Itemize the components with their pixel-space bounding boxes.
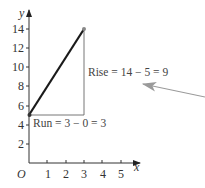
pointer-arrow	[143, 84, 205, 97]
svg-text:14: 14	[12, 22, 24, 36]
svg-text:2: 2	[63, 167, 69, 181]
svg-text:12: 12	[12, 41, 24, 55]
svg-text:2: 2	[18, 137, 24, 151]
origin-label: O	[17, 167, 26, 181]
svg-text:1: 1	[45, 167, 51, 181]
x-tick-labels: 1 2 3 4 5	[45, 167, 124, 181]
rise-annotation: Rise = 14 − 5 = 9	[88, 66, 168, 78]
y-axis-label: y	[18, 6, 25, 20]
slope-segment	[29, 29, 84, 115]
point-end	[82, 27, 86, 31]
slope-diagram: 2 4 6 8 10 12 14 1 2 3 4 5 y x O Rise = …	[0, 0, 205, 188]
svg-text:8: 8	[18, 79, 24, 93]
svg-text:3: 3	[81, 167, 87, 181]
svg-text:6: 6	[18, 99, 24, 113]
svg-text:10: 10	[12, 60, 24, 74]
svg-text:5: 5	[118, 167, 124, 181]
point-start	[28, 113, 32, 117]
svg-text:4: 4	[18, 118, 24, 132]
svg-text:4: 4	[100, 167, 106, 181]
y-tick-labels: 2 4 6 8 10 12 14	[12, 22, 24, 151]
run-annotation: Run = 3 − 0 = 3	[33, 117, 106, 129]
x-axis-label: x	[133, 160, 140, 174]
